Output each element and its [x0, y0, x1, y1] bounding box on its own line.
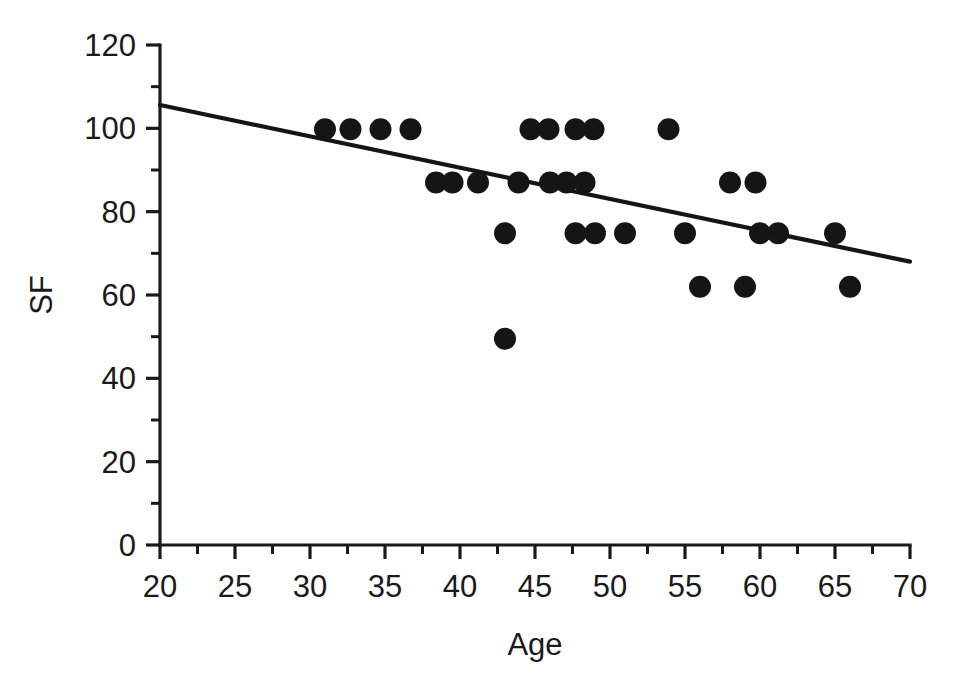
data-point [565, 222, 587, 244]
y-tick-label: 100 [84, 111, 136, 146]
y-axis: 020406080100120 [84, 28, 160, 563]
scatter-plot-figure: 020406080100120 2025303540455055606570 A… [0, 0, 972, 690]
data-point [370, 118, 392, 140]
x-axis-title: Age [507, 627, 562, 662]
data-point [839, 276, 861, 298]
data-point [442, 172, 464, 194]
data-point [538, 118, 560, 140]
x-tick-label: 35 [368, 569, 402, 604]
data-point [614, 222, 636, 244]
y-tick-label: 120 [84, 28, 136, 63]
x-tick-label: 25 [218, 569, 252, 604]
data-point [734, 276, 756, 298]
data-point [584, 222, 606, 244]
data-point [400, 118, 422, 140]
y-tick-label: 80 [102, 195, 136, 230]
data-point [658, 118, 680, 140]
x-tick-label: 70 [893, 569, 927, 604]
data-point [340, 118, 362, 140]
data-point [689, 276, 711, 298]
data-point [824, 222, 846, 244]
data-point [719, 172, 741, 194]
x-tick-label: 55 [668, 569, 702, 604]
y-tick-label: 20 [102, 445, 136, 480]
x-tick-label: 45 [518, 569, 552, 604]
y-tick-label: 0 [119, 528, 136, 563]
x-tick-label: 30 [293, 569, 327, 604]
data-point [745, 172, 767, 194]
data-point [494, 222, 516, 244]
chart-canvas: 020406080100120 2025303540455055606570 A… [0, 0, 972, 690]
y-tick-label: 40 [102, 361, 136, 396]
data-point [583, 118, 605, 140]
data-point [674, 222, 696, 244]
x-tick-label: 50 [593, 569, 627, 604]
data-point [494, 328, 516, 350]
x-axis: 2025303540455055606570 [143, 545, 927, 604]
x-tick-label: 20 [143, 569, 177, 604]
y-tick-label: 60 [102, 278, 136, 313]
x-tick-label: 40 [443, 569, 477, 604]
x-tick-label: 65 [818, 569, 852, 604]
x-tick-label: 60 [743, 569, 777, 604]
y-axis-title: SF [24, 275, 59, 315]
